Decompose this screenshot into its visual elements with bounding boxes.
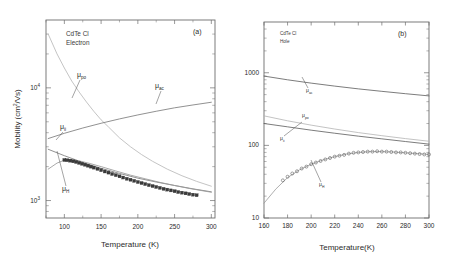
panel-a-data-marker	[86, 164, 89, 167]
panel-a-leader-ac	[156, 91, 161, 104]
panel-a-data-marker	[92, 166, 95, 169]
panel-a-data-marker	[89, 165, 92, 168]
panel-a-y-axis: 103104	[30, 34, 215, 211]
panel-a-data-marker	[151, 185, 154, 188]
panel-a-data-marker	[191, 193, 194, 196]
panel-a-annotation-line1: CdTe Cl	[66, 30, 89, 37]
panel-a-curve-μii	[48, 149, 211, 192]
panel-b-label: (b)	[398, 30, 407, 38]
panel-b-curve-label-ii: μii	[280, 135, 285, 143]
panel-a-data-marker	[184, 192, 187, 195]
panel-a-y-axis-title: Mobility (cm2/Vs)	[13, 89, 22, 149]
panel-b-curve-label-po: μpo	[302, 112, 309, 120]
panel-a-data-marker	[63, 158, 66, 161]
panel-a-data-marker	[118, 175, 121, 178]
panel-b-annotation-line2: Hole	[280, 39, 290, 44]
panel-a-xtick-label: 300	[206, 223, 217, 230]
panel-b: 160180200220240260280300 101001000 CdTe …	[232, 0, 449, 278]
panel-b-curve-μac	[264, 76, 429, 96]
panel-a-svg: 100150200250300 103104 CdTe Cl Electron …	[0, 0, 232, 278]
panel-a-data-marker	[83, 163, 86, 166]
panel-a-curve-μpo	[48, 34, 211, 186]
panel-b-data-marker	[281, 179, 284, 182]
panel-b-plot-frame	[264, 22, 429, 218]
panel-b-curve-label-h: μH	[319, 181, 325, 189]
panel-b-xtick-label: 260	[376, 222, 387, 229]
panel-a-data-marker	[122, 176, 125, 179]
panel-b-svg: 160180200220240260280300 101001000 CdTe …	[232, 0, 449, 278]
panel-a-data-marker	[72, 160, 75, 163]
panel-a-xtick-label: 100	[59, 223, 70, 230]
panel-a-xtick-label: 250	[169, 223, 180, 230]
panel-a-data-marker	[75, 160, 78, 163]
panel-a-data-marker	[144, 183, 147, 186]
panel-a-data-marker	[103, 170, 106, 173]
panel-b-xtick-label: 180	[282, 222, 293, 229]
panel-a-data-marker	[107, 171, 110, 174]
panel-a-curve-label-ii: μii	[60, 123, 66, 132]
panel-a-data-marker	[100, 169, 103, 172]
panel-a-data-marker	[147, 184, 150, 187]
panel-a-data-marker	[140, 182, 143, 185]
figure-canvas: 100150200250300 103104 CdTe Cl Electron …	[0, 0, 449, 278]
panel-a-data-marker	[136, 181, 139, 184]
panel-a-data-marker	[180, 191, 183, 194]
panel-a-x-axis-title: Temperature (K)	[101, 240, 159, 249]
panel-b-x-axis-title: Temperature(K)	[319, 243, 375, 252]
panel-a-data-marker	[155, 185, 158, 188]
panel-b-xtick-label: 300	[424, 222, 435, 229]
panel-b-curve-label-ac: μac	[306, 87, 313, 95]
panel-a-data-points	[63, 158, 198, 196]
panel-a-data-marker	[125, 177, 128, 180]
panel-b-ytick-label: 1000	[245, 69, 260, 76]
panel-b-curve-μii	[264, 124, 429, 145]
panel-a-data-marker	[188, 193, 191, 196]
panel-a-label: (a)	[193, 28, 202, 36]
panel-b-xtick-label: 200	[306, 222, 317, 229]
panel-a-data-marker	[166, 188, 169, 191]
panel-a-curve-label-ac: μac	[155, 82, 165, 91]
panel-a-x-axis: 100150200250300	[46, 20, 217, 230]
panel-a-ytick-label: 104	[30, 83, 40, 91]
panel-b-leader-ii	[284, 122, 302, 136]
panel-a-data-marker	[158, 186, 161, 189]
panel-a-data-marker	[66, 159, 69, 162]
panel-a-data-marker	[195, 194, 198, 197]
panel-a-data-marker	[81, 162, 84, 165]
panel-b-x-axis: 160180200220240260280300	[259, 22, 435, 229]
panel-b-annotation-line1: CdTe Cl	[280, 31, 296, 36]
panel-a-data-marker	[129, 178, 132, 181]
panel-a-data-marker	[114, 174, 117, 177]
panel-a-data-marker	[96, 167, 99, 170]
panel-a-data-marker	[133, 179, 136, 182]
panel-a-data-marker	[162, 187, 165, 190]
panel-b-data-points	[281, 150, 430, 182]
panel-a-data-marker	[69, 159, 72, 162]
panel-a-xtick-label: 200	[132, 223, 143, 230]
panel-a-data-marker	[78, 161, 81, 164]
panel-a-data-marker	[169, 189, 172, 192]
panel-a-curve-μac	[48, 102, 211, 138]
panel-a: 100150200250300 103104 CdTe Cl Electron …	[0, 0, 232, 278]
panel-b-curves	[264, 76, 429, 203]
panel-b-xtick-label: 160	[259, 222, 270, 229]
panel-a-curve-label-h: μH	[62, 185, 69, 194]
panel-b-xtick-label: 280	[400, 222, 411, 229]
panel-a-annotation-line2: Electron	[66, 39, 90, 46]
panel-a-ytick-label: 103	[30, 196, 40, 204]
panel-b-curve-μpo	[264, 116, 429, 141]
panel-b-ytick-label: 10	[252, 214, 260, 221]
panel-a-data-marker	[177, 191, 180, 194]
panel-a-xtick-label: 150	[96, 223, 107, 230]
panel-b-xtick-label: 240	[353, 222, 364, 229]
panel-b-leader-h	[311, 160, 321, 182]
panel-b-ytick-label: 100	[248, 141, 259, 148]
panel-a-curves	[48, 34, 211, 192]
panel-a-data-marker	[111, 173, 114, 176]
panel-b-xtick-label: 220	[329, 222, 340, 229]
panel-a-curve-label-po: μpo	[77, 71, 87, 80]
panel-a-data-marker	[173, 190, 176, 193]
